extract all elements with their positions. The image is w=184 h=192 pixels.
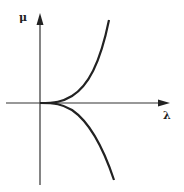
mu-axis-label: μ	[19, 12, 27, 23]
upper-branch-curve	[40, 20, 109, 103]
lower-branch-curve	[40, 103, 114, 180]
cusp-diagram: μ λ	[0, 0, 184, 192]
diagram-canvas	[0, 0, 184, 192]
horizontal-axis-arrow-icon	[158, 100, 170, 107]
vertical-axis-arrow-icon	[37, 13, 44, 25]
lambda-axis-label: λ	[163, 110, 171, 121]
